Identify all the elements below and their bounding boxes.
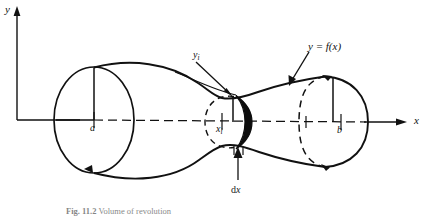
sample-height-label: yi bbox=[193, 50, 200, 61]
x-axis-label: x bbox=[414, 115, 419, 126]
x-axis-arrowhead bbox=[396, 118, 407, 125]
lower-limit-label: a bbox=[90, 123, 95, 133]
upper-limit-label: b bbox=[337, 125, 342, 135]
function-label: y = f(x) bbox=[308, 41, 341, 52]
sample-height-subscript: i bbox=[197, 53, 199, 62]
thickness-label: dx bbox=[231, 184, 240, 195]
figure-caption: Fig. 11.2 Volume of revolution bbox=[66, 206, 171, 216]
sample-point-subscript: i bbox=[220, 127, 222, 136]
y-axis-label: y bbox=[5, 4, 10, 15]
figure-number: Fig. 11.2 bbox=[66, 206, 96, 216]
y-axis-arrowhead bbox=[14, 6, 21, 16]
sample-point-label: xi bbox=[216, 124, 223, 135]
lower-surface-profile bbox=[94, 145, 325, 179]
thickness-x: x bbox=[236, 184, 240, 195]
axis-group bbox=[14, 6, 407, 126]
representative-disk-slab bbox=[236, 96, 252, 150]
dx-leader bbox=[234, 146, 244, 180]
y-i-leader bbox=[196, 62, 233, 97]
figure-caption-text: Volume of revolution bbox=[98, 206, 171, 216]
volume-of-revolution-drawing bbox=[0, 0, 429, 218]
sample-disk-dashed-ellipse bbox=[205, 96, 234, 148]
figure-container: y x a b xi yi y = f(x) dx Fig. 11.2 Volu… bbox=[0, 0, 429, 218]
